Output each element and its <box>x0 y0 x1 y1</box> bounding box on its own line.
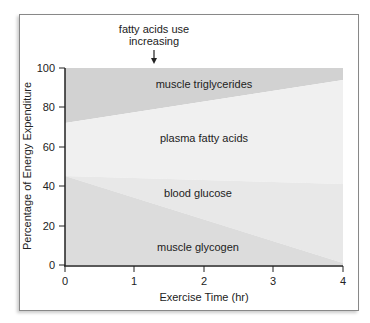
svg-text:3: 3 <box>270 275 276 287</box>
x-axis-label: Exercise Time (hr) <box>159 291 248 303</box>
svg-text:40: 40 <box>43 180 55 192</box>
svg-text:4: 4 <box>340 275 346 287</box>
label-muscle-triglycerides: muscle triglycerides <box>156 78 253 90</box>
x-tick-labels: 0 1 2 3 4 <box>62 275 346 287</box>
svg-text:20: 20 <box>43 220 55 232</box>
svg-text:2: 2 <box>201 275 207 287</box>
svg-text:0: 0 <box>49 259 55 271</box>
svg-text:1: 1 <box>131 275 137 287</box>
y-ticks <box>59 68 65 265</box>
label-blood-glucose: blood glucose <box>164 187 232 199</box>
down-arrow-icon <box>151 50 157 64</box>
energy-chart: 100 80 60 40 20 0 0 1 2 3 4 Exercise Tim… <box>0 0 370 323</box>
y-tick-labels: 100 80 60 40 20 0 <box>37 62 55 271</box>
svg-text:100: 100 <box>37 62 55 74</box>
y-axis-label: Percentage of Energy Expenditure <box>21 82 33 250</box>
label-muscle-glycogen: muscle glycogen <box>157 241 239 253</box>
label-plasma-fatty-acids: plasma fatty acids <box>160 132 249 144</box>
x-ticks <box>65 266 343 272</box>
svg-text:60: 60 <box>43 141 55 153</box>
annotation-line2: increasing <box>129 35 179 47</box>
svg-text:80: 80 <box>43 101 55 113</box>
svg-text:0: 0 <box>62 275 68 287</box>
annotation-line1: fatty acids use <box>119 23 189 35</box>
